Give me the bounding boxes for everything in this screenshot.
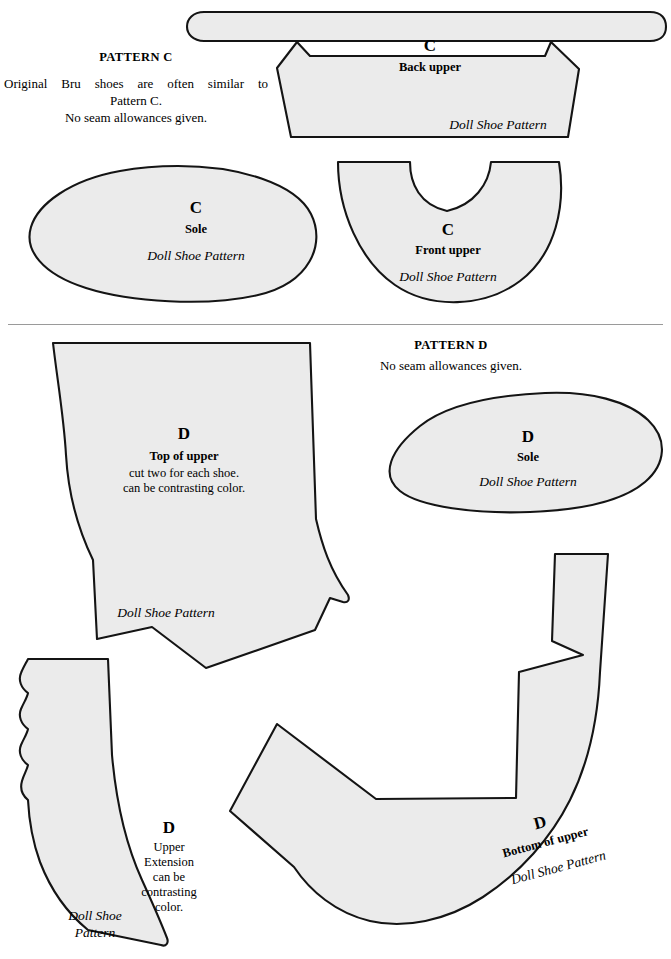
label-c-sole-brand: Doll Shoe Pattern <box>116 248 276 264</box>
label-d-upper-extension-name-2: Extension <box>132 855 206 870</box>
label-d-upper-extension-note-1: can be <box>132 870 206 885</box>
pattern-c-description-line-3: No seam allowances given. <box>65 110 207 125</box>
label-d-sole-brand: Doll Shoe Pattern <box>448 474 608 490</box>
pattern-d-title: PATTERN D <box>340 338 562 353</box>
label-c-sole-name: Sole <box>146 222 246 237</box>
label-d-top-of-upper-brand: Doll Shoe Pattern <box>86 605 246 621</box>
label-d-top-of-upper-note-1: cut two for each shoe. <box>114 466 254 481</box>
pattern-d-description-line-1: No seam allowances given. <box>340 358 562 375</box>
label-c-sole-letter: C <box>146 198 246 219</box>
label-d-upper-extension-name-1: Upper <box>132 840 206 855</box>
pattern-c-title: PATTERN C <box>0 50 272 65</box>
label-c-back-upper-letter: C <box>380 36 480 57</box>
label-c-front-upper-name: Front upper <box>398 243 498 258</box>
label-d-upper-extension-brand-2: Pattern <box>40 925 150 941</box>
label-d-top-of-upper-note-2: can be contrasting color. <box>114 481 254 496</box>
label-c-front-upper-letter: C <box>398 220 498 241</box>
label-d-upper-extension-letter: D <box>132 818 206 839</box>
label-d-sole-letter: D <box>478 427 578 448</box>
section-divider <box>8 324 663 325</box>
label-d-upper-extension-brand-1: Doll Shoe <box>40 908 150 924</box>
label-c-front-upper-brand: Doll Shoe Pattern <box>368 269 528 285</box>
pattern-c-description-line-1: Original Bru shoes are often similar to <box>4 76 268 93</box>
label-d-top-of-upper-letter: D <box>134 424 234 445</box>
pattern-c-description: Original Bru shoes are often similar to … <box>4 76 268 127</box>
label-d-top-of-upper-name: Top of upper <box>134 449 234 464</box>
label-c-back-upper-name: Back upper <box>380 60 480 75</box>
pattern-c-description-line-2: Pattern C. <box>110 93 162 108</box>
label-c-back-upper-brand: Doll Shoe Pattern <box>418 117 578 133</box>
label-d-upper-extension-note-2: contrasting <box>132 885 206 900</box>
pattern-sheet-page: PATTERN C Original Bru shoes are often s… <box>0 0 671 959</box>
label-d-sole-name: Sole <box>478 450 578 465</box>
